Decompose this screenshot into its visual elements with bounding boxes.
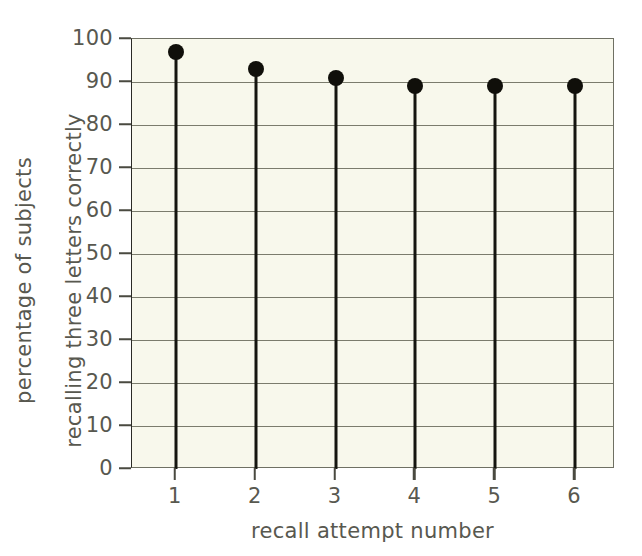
y-axis-tick bbox=[119, 252, 131, 254]
data-stem bbox=[254, 69, 257, 469]
data-stem bbox=[414, 86, 417, 469]
y-axis-tick bbox=[119, 123, 131, 125]
x-axis-tick bbox=[253, 468, 256, 480]
data-stem bbox=[494, 86, 497, 469]
gridline bbox=[132, 168, 613, 169]
data-stem bbox=[174, 52, 177, 469]
x-axis-tick-label: 3 bbox=[328, 484, 342, 508]
x-axis-tick-label: 2 bbox=[248, 484, 262, 508]
data-point bbox=[248, 61, 264, 77]
y-axis-tick bbox=[119, 209, 131, 211]
y-axis-tick bbox=[119, 467, 131, 469]
x-axis-title: recall attempt number bbox=[131, 519, 614, 543]
data-point bbox=[328, 70, 344, 86]
plot-area bbox=[131, 38, 614, 468]
data-stem bbox=[334, 78, 337, 469]
x-axis-tick bbox=[493, 468, 496, 480]
gridline bbox=[132, 254, 613, 255]
x-axis-tick bbox=[573, 468, 576, 480]
y-axis-tick bbox=[119, 338, 131, 340]
y-axis-tick bbox=[119, 381, 131, 383]
x-axis-tick-label: 4 bbox=[408, 484, 422, 508]
y-axis-tick bbox=[119, 424, 131, 426]
data-point bbox=[567, 78, 583, 94]
x-axis-tick bbox=[413, 468, 416, 480]
y-axis-title-line-1: percentage of subjects bbox=[12, 71, 37, 491]
data-stem bbox=[574, 86, 577, 469]
data-point bbox=[487, 78, 503, 94]
gridline bbox=[132, 297, 613, 298]
gridline bbox=[132, 82, 613, 83]
gridline bbox=[132, 125, 613, 126]
gridline bbox=[132, 340, 613, 341]
y-axis-tick bbox=[119, 80, 131, 82]
y-axis-tick-label: 100 bbox=[45, 26, 113, 50]
x-axis-tick-label: 1 bbox=[168, 484, 182, 508]
x-axis-tick-label: 6 bbox=[567, 484, 581, 508]
gridline bbox=[132, 211, 613, 212]
gridline bbox=[132, 426, 613, 427]
y-axis-tick bbox=[119, 166, 131, 168]
x-axis-tick bbox=[333, 468, 336, 480]
y-axis-tick bbox=[119, 295, 131, 297]
data-point bbox=[407, 78, 423, 94]
chart-figure: 0102030405060708090100 123456 recall att… bbox=[0, 0, 642, 556]
y-axis-title-line-2: recalling three letters correctly bbox=[62, 71, 87, 491]
x-axis-tick-label: 5 bbox=[487, 484, 501, 508]
x-axis-tick bbox=[174, 468, 177, 480]
data-point bbox=[168, 44, 184, 60]
gridline bbox=[132, 383, 613, 384]
y-axis-tick bbox=[119, 37, 131, 39]
y-axis-title: percentage of subjects recalling three l… bbox=[0, 71, 112, 491]
